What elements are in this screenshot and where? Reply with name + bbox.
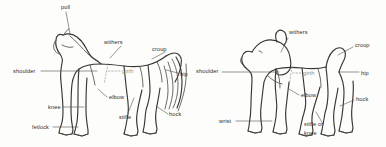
horse-hindquarter-outline: [166, 53, 181, 82]
leader-stifle: [128, 98, 134, 113]
dog-rump-outline: [339, 72, 353, 133]
horse-label-hip: hip: [180, 71, 188, 78]
horse-label-shoulder: shoulder: [13, 68, 35, 75]
dog-label-hock: hock: [356, 96, 368, 103]
horse-fore-leg-far: [74, 69, 88, 136]
horse-label-fetlock: fetlock: [32, 124, 49, 131]
horse-tail: [164, 57, 186, 111]
leader-withers: [110, 46, 121, 58]
dog-label-girth: girth: [303, 70, 314, 77]
horse-label-knee: knee: [48, 104, 61, 111]
dog-eye-detail: [259, 51, 262, 53]
dog-head-outline: [252, 40, 291, 75]
horse-label-croup: croup: [152, 46, 167, 53]
dog-label-wrist: wrist: [219, 118, 231, 125]
dog-leader-withers: [281, 38, 288, 52]
leader-elbow: [98, 89, 107, 97]
horse-shoulder-line: [90, 65, 95, 85]
dog-label-shoulder: shoulder: [196, 68, 218, 75]
horse-cheek-detail: [62, 45, 73, 47]
dog-label-stifle-knee: knee: [304, 130, 317, 137]
dog-fore-leg-far: [273, 69, 289, 134]
dog-leader-elbow: [289, 89, 299, 95]
horse-label-stifle: stifle: [119, 114, 131, 121]
horse-label-hock: hock: [169, 111, 181, 118]
anatomy-artwork: [0, 0, 386, 147]
dog-flank-line: [318, 69, 321, 87]
dog-tail: [326, 48, 345, 72]
anatomy-figure: poll withers croup shoulder girth hip el…: [0, 0, 386, 147]
horse-label-withers: withers: [104, 39, 123, 46]
leader-hock: [156, 106, 168, 114]
dog-leader-lines: [222, 38, 359, 124]
horse-label-girth: girth: [122, 68, 133, 75]
dog-label-croup: croup: [355, 42, 370, 49]
dog-label-stifle-or: stifle or: [304, 121, 323, 128]
horse-mane-line: [70, 36, 102, 64]
horse-hip-line: [157, 62, 162, 82]
dog-hind-leg-far: [321, 67, 338, 136]
dog-label-elbow: elbow: [301, 92, 316, 99]
girth-line: [104, 64, 108, 84]
horse-label-poll: poll: [61, 4, 70, 11]
dog-label-withers: withers: [289, 29, 308, 36]
dog-label-hip: hip: [361, 70, 369, 77]
horse-label-elbow: elbow: [109, 94, 124, 101]
dog-shoulder-line: [277, 70, 280, 88]
horse-flank-line: [140, 67, 143, 87]
horse-hind-leg-far: [143, 65, 160, 134]
dog-outline-group: [241, 30, 354, 136]
